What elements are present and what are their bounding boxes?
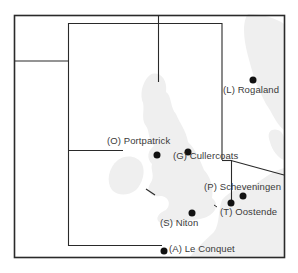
land-norway	[244, 14, 284, 130]
station-dot-scheveningen	[240, 193, 247, 200]
station-label-cullercoats: (G) Cullercoats	[173, 150, 238, 161]
station-label-rogaland: (L) Rogaland	[223, 84, 279, 95]
boundary-east-diagonal	[231, 161, 284, 176]
station-dot-portpatrick	[154, 152, 161, 159]
station-label-oostende: (T) Oostende	[220, 206, 277, 217]
land-jutland	[269, 129, 284, 160]
station-label-niton: (S) Niton	[160, 217, 198, 228]
land-ireland	[109, 157, 144, 195]
station-label-portpatrick: (O) Portpatrick	[107, 135, 170, 146]
land-great-britain	[141, 74, 216, 224]
station-dot-le-conquet	[161, 248, 168, 255]
station-label-scheveningen: (P) Scheveningen	[204, 181, 281, 192]
station-label-le-conquet: (A) Le Conquet	[169, 243, 235, 254]
station-dot-rogaland	[250, 77, 257, 84]
station-dot-niton	[189, 210, 196, 217]
station-map: (L) Rogaland (O) Portpatrick (G) Cullerc…	[0, 0, 298, 273]
